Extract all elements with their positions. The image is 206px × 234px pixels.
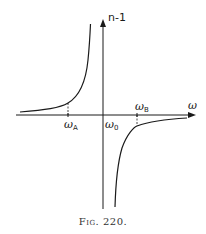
omega-a-subscript: A [73,124,78,132]
omega-0-symbol: ω [105,118,114,131]
left-curve-branch [20,24,91,112]
y-axis-label: n-1 [108,12,126,23]
omega-b-subscript: B [144,106,149,114]
right-curve-branch [115,118,187,207]
y-axis-arrow-icon [100,19,106,27]
figure-caption: Fig. 220. [0,216,206,227]
omega-0-label: ω0 [105,119,118,132]
dispersion-diagram [0,0,206,234]
omega-a-symbol: ω [64,118,73,131]
omega-a-label: ωA [64,119,78,132]
x-axis-arrow-icon [188,112,196,118]
omega-b-label: ωB [135,101,149,114]
omega-b-symbol: ω [135,100,144,113]
omega-0-subscript: 0 [114,124,118,132]
x-axis-label: ω [188,100,197,111]
